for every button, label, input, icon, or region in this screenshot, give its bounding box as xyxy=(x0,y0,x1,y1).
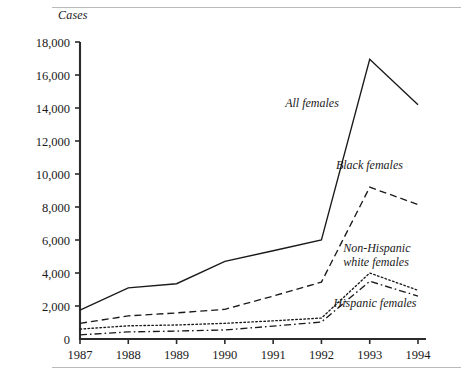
line-chart-plot: 02,0004,0006,0008,00010,00012,00014,0001… xyxy=(0,0,469,386)
series-label-dashdot: Hispanic females xyxy=(333,296,417,310)
y-axis-tick-label: 8,000 xyxy=(42,201,70,215)
y-axis-tick-label: 6,000 xyxy=(42,234,70,248)
series-label-solid: All females xyxy=(284,96,339,110)
y-axis-tick-label: 10,000 xyxy=(36,168,70,182)
y-axis-tick-group: 02,0004,0006,0008,00010,00012,00014,0001… xyxy=(36,36,80,347)
x-axis-tick-label: 1993 xyxy=(357,348,382,362)
y-axis-tick-label: 12,000 xyxy=(36,135,70,149)
x-axis-tick-group: 19871988198919901991199219931994 xyxy=(68,339,432,362)
y-axis-tick-label: 18,000 xyxy=(36,36,70,50)
series-label-dotted-line2: white females xyxy=(343,255,409,269)
y-axis-tick-label: 0 xyxy=(64,333,70,347)
y-axis-tick-label: 14,000 xyxy=(36,102,70,116)
x-axis-tick-label: 1991 xyxy=(261,348,286,362)
series-label-dashed: Black females xyxy=(336,158,403,172)
figure-container: Cases 02,0004,0006,0008,00010,00012,0001… xyxy=(0,0,469,386)
series-line-solid xyxy=(80,59,418,310)
x-axis-tick-label: 1989 xyxy=(164,348,189,362)
x-axis-tick-label: 1987 xyxy=(68,348,93,362)
x-axis-tick-label: 1988 xyxy=(116,348,141,362)
series-label-group: All femalesBlack femalesNon-Hispanicwhit… xyxy=(284,96,417,310)
x-axis-tick-label: 1990 xyxy=(212,348,237,362)
y-axis-tick-label: 16,000 xyxy=(36,69,70,83)
y-axis-tick-label: 2,000 xyxy=(42,300,70,314)
series-label-dotted: Non-Hispanic xyxy=(342,241,411,255)
y-axis-tick-label: 4,000 xyxy=(42,267,70,281)
x-axis-tick-label: 1992 xyxy=(309,348,334,362)
x-axis-tick-label: 1994 xyxy=(406,348,432,362)
series-line-group xyxy=(80,59,418,335)
axis-lines xyxy=(80,42,426,339)
